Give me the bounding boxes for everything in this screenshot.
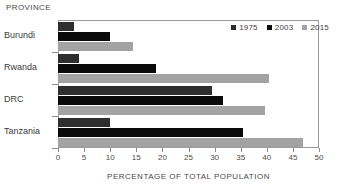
x-axis-tick [319,148,320,152]
bar [58,118,110,127]
legend-item-2003[interactable]: 2003 [267,23,294,32]
bar-group [58,86,319,115]
bar [58,22,74,31]
x-axis-tick [110,148,111,152]
x-axis-tick-label: 35 [229,153,253,162]
category-label-burundi: Burundi [4,30,35,40]
x-axis-tick-label: 20 [150,153,174,162]
bar [58,64,156,73]
x-axis-tick-label: 10 [98,153,122,162]
bar-group [58,118,319,147]
x-axis-tick-label: 50 [307,153,331,162]
x-axis-tick-label: 30 [203,153,227,162]
category-label-rwanda: Rwanda [4,62,37,72]
bar [58,86,212,95]
bar-group [58,54,319,83]
x-axis-tick [267,148,268,152]
x-axis-tick [84,148,85,152]
bar [58,138,303,147]
category-label-tanzania: Tanzania [4,126,40,136]
legend-item-1975[interactable]: 1975 [231,23,258,32]
legend-label: 1975 [239,23,258,32]
x-axis-tick-label: 0 [46,153,70,162]
x-axis-tick [215,148,216,152]
x-axis-tick [58,148,59,152]
legend: 197520032015 [231,23,329,32]
x-axis-tick [189,148,190,152]
bar-chart: PROVINCE BurundiRwandaDRCTanzania 051015… [0,0,339,195]
legend-swatch-icon [267,25,272,30]
bar [58,106,265,115]
x-axis-tick [162,148,163,152]
bar [58,74,269,83]
x-axis-tick-label: 40 [255,153,279,162]
legend-item-2015[interactable]: 2015 [302,23,329,32]
legend-swatch-icon [231,25,236,30]
bar [58,128,243,137]
x-axis-tick-label: 25 [177,153,201,162]
y-axis-title: PROVINCE [6,3,51,12]
bar [58,42,133,51]
x-axis-tick [241,148,242,152]
x-axis-tick [136,148,137,152]
category-label-drc: DRC [4,94,24,104]
legend-label: 2003 [275,23,294,32]
bar [58,54,79,63]
bar [58,96,223,105]
bar [58,32,110,41]
x-axis-tick [293,148,294,152]
x-axis-tick-label: 45 [281,153,305,162]
legend-label: 2015 [310,23,329,32]
legend-swatch-icon [302,25,307,30]
x-axis-tick-label: 5 [72,153,96,162]
x-axis-title: PERCENTAGE OF TOTAL POPULATION [58,172,319,181]
x-axis-tick-label: 15 [124,153,148,162]
